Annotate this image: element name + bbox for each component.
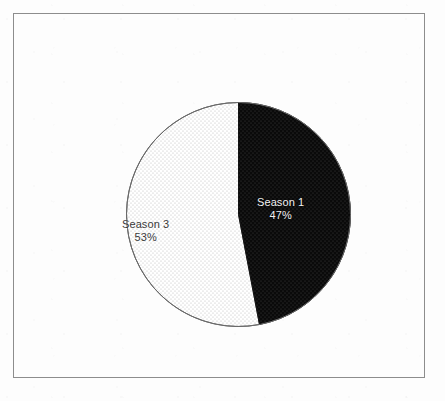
pie-label-season-1-percent: 47% xyxy=(257,209,304,222)
pie-label-season-1: Season 1 47% xyxy=(257,196,304,222)
figure-frame: Season 1 47% Season 3 53% xyxy=(13,13,425,378)
pie-label-season-3-name: Season 3 xyxy=(122,218,169,231)
pie-label-season-3-percent: 53% xyxy=(122,231,169,244)
pie-label-season-3: Season 3 53% xyxy=(122,218,169,244)
pie-chart-area: Season 1 47% Season 3 53% xyxy=(14,14,424,377)
pie-label-season-1-name: Season 1 xyxy=(257,196,304,209)
pie-chart xyxy=(126,102,351,327)
pie-chart-svg xyxy=(126,102,351,327)
chart-page: Season 1 47% Season 3 53% xyxy=(0,0,445,401)
